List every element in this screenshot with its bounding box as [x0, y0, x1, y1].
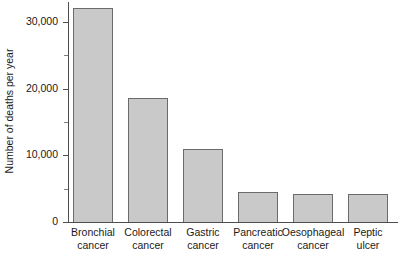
- plot-area: 010,00020,00030,000 BronchialcancerColor…: [68, 0, 400, 259]
- y-tick-major: [63, 222, 68, 223]
- y-tick-label: 30,000: [0, 16, 58, 27]
- bar: [183, 149, 223, 222]
- bar: [128, 98, 168, 222]
- x-axis-label-line: Gastric: [186, 226, 219, 238]
- bar: [238, 192, 278, 222]
- y-axis-title: Number of deaths per year: [0, 0, 18, 222]
- x-axis-label: Pepticulcer: [328, 226, 400, 252]
- y-tick-minor: [64, 189, 68, 190]
- bar: [348, 194, 388, 222]
- y-tick-minor: [64, 55, 68, 56]
- y-tick-major: [63, 155, 68, 156]
- x-axis-label-line: Peptic: [353, 226, 382, 238]
- y-tick-major: [63, 22, 68, 23]
- y-tick-label: 20,000: [0, 83, 58, 94]
- y-tick-label: 10,000: [0, 149, 58, 160]
- x-axis-line: [68, 222, 398, 223]
- bar-chart: Number of deaths per year 010,00020,0003…: [0, 0, 400, 259]
- y-tick-label: 0: [0, 216, 58, 227]
- bar: [293, 194, 333, 222]
- y-axis-line: [68, 2, 69, 223]
- y-tick-minor: [64, 122, 68, 123]
- x-axis-label-line: ulcer: [328, 239, 400, 252]
- bar: [73, 8, 113, 222]
- y-tick-major: [63, 89, 68, 90]
